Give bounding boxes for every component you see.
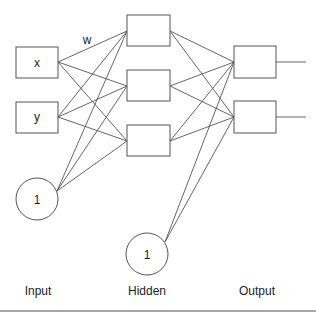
- input-bias-label: 1: [34, 193, 41, 207]
- connection-hbias-o2: [165, 117, 234, 242]
- neural-network-diagram: x y 1 1 w Input Hidden Output: [0, 0, 316, 314]
- layer-label-input: Input: [25, 284, 52, 298]
- layer-label-output: Output: [239, 284, 276, 298]
- layer-label-hidden: Hidden: [128, 284, 166, 298]
- input-bias-node: 1: [16, 178, 58, 220]
- weight-label: w: [82, 33, 92, 47]
- input-node-x: x: [16, 47, 58, 78]
- input-node-y-label: y: [34, 110, 40, 124]
- connection-bias-h1: [57, 31, 127, 191]
- connection-h1-o1: [170, 31, 234, 62]
- hidden-to-output-connections: [165, 31, 234, 242]
- hidden-node-1: [127, 15, 170, 46]
- hidden-bias-node: 1: [126, 233, 168, 275]
- output-node-1: [234, 46, 276, 78]
- input-to-hidden-connections: [57, 31, 127, 191]
- hidden-node-2: [127, 70, 170, 101]
- hidden-bias-label: 1: [144, 248, 151, 262]
- hidden-node-3: [127, 125, 170, 156]
- input-node-y: y: [16, 102, 58, 133]
- input-node-x-label: x: [34, 56, 40, 70]
- output-node-2: [234, 101, 276, 133]
- connection-x-h1: [58, 31, 127, 62]
- diagram-svg: x y 1 1 w Input Hidden Output: [0, 0, 316, 314]
